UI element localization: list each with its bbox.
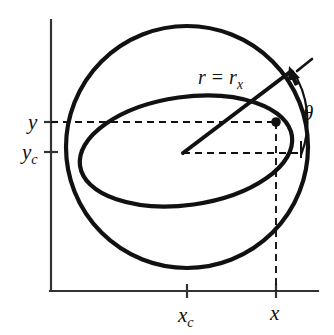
axes-group (50, 20, 318, 291)
sphere-outline (66, 26, 308, 268)
yc-label-base: y (20, 140, 32, 164)
radius-label: r=rx (198, 66, 243, 92)
radius-label-second-base: r (229, 66, 237, 88)
y-label: y (26, 110, 38, 134)
radius-label-subscript: x (236, 77, 243, 92)
sphere-diagram: r=rx θ y yc xc x (0, 0, 334, 335)
tangent-ray (297, 59, 312, 71)
yc-label: yc (20, 140, 38, 167)
x-label: x (269, 301, 280, 325)
radius-label-base: r (198, 66, 206, 88)
xc-label-subscript: c (187, 314, 194, 330)
radius-label-operator: = (212, 66, 223, 88)
xc-label: xc (177, 303, 194, 330)
yc-label-subscript: c (31, 151, 38, 167)
theta-label: θ (303, 101, 313, 125)
tick-marks-group (44, 122, 276, 298)
surface-point-dot (271, 117, 281, 127)
figure-container: r=rx θ y yc xc x (0, 0, 334, 335)
